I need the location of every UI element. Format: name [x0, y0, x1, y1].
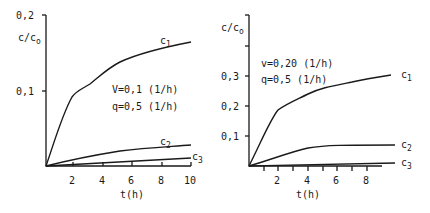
left-ylabel: c/co: [18, 32, 41, 46]
left-xlabel: t(h): [120, 189, 144, 200]
right-annotation-q: q=0,5 (1/h): [261, 74, 327, 85]
right-curve-c1: [249, 75, 391, 166]
right-ylabel: c/co: [221, 22, 244, 36]
right-xtick-label: 6: [333, 175, 339, 186]
left-chart: 0,2 0,1 c/co 2 4 6 8 10 t(h) V=0,1 (1/h)…: [16, 10, 203, 200]
left-label-c3: c3: [192, 151, 203, 165]
right-ytick-label: 0,2: [221, 101, 239, 112]
left-ytick-label-mid: 0,1: [16, 86, 34, 97]
figure: 0,2 0,1 c/co 2 4 6 8 10 t(h) V=0,1 (1/h)…: [0, 0, 430, 213]
left-xtick-label: 4: [99, 175, 105, 186]
left-label-c1: c1: [160, 35, 171, 49]
left-xtick-label: 6: [128, 175, 134, 186]
left-annotation-v: V=0,1 (1/h): [112, 84, 178, 95]
left-label-c2: c2: [160, 136, 171, 150]
right-label-c3: c3: [401, 157, 412, 171]
right-ytick-label: 0,3: [221, 71, 239, 82]
right-label-c1: c1: [401, 69, 412, 83]
right-xtick-label: 2: [274, 175, 280, 186]
right-label-c2: c2: [401, 139, 412, 153]
left-xtick-label: 8: [158, 175, 164, 186]
left-curve-c3: [46, 158, 191, 166]
left-xtick-label: 10: [184, 175, 196, 186]
left-ytick-label-top: 0,2: [16, 10, 34, 21]
right-xlabel: t(h): [296, 189, 320, 200]
right-xtick-label: 8: [363, 175, 369, 186]
left-annotation-q: q=0,5 (1/h): [112, 101, 178, 112]
left-xtick-label: 2: [69, 175, 75, 186]
right-xtick-label: 4: [304, 175, 310, 186]
right-annotation-v: v=0,20 (1/h): [261, 58, 333, 69]
right-ytick-label: 0,1: [221, 131, 239, 142]
right-chart: 0,3 0,2 0,1 c/co 2 4 6 8 t(h) v=0,20 (1/…: [221, 15, 412, 200]
